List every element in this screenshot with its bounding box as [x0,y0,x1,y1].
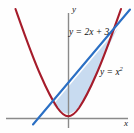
y-axis-label: y [72,5,76,14]
parabola-equation-base: y = x [100,67,120,77]
parabola-equation-exponent: 2 [120,65,123,72]
math-figure: y x y = 2x + 3 y = x2 [0,0,134,133]
parabola-equation-label: y = x2 [100,68,123,78]
x-axis-label: x [124,119,128,128]
line-equation-label: y = 2x + 3 [69,28,109,38]
